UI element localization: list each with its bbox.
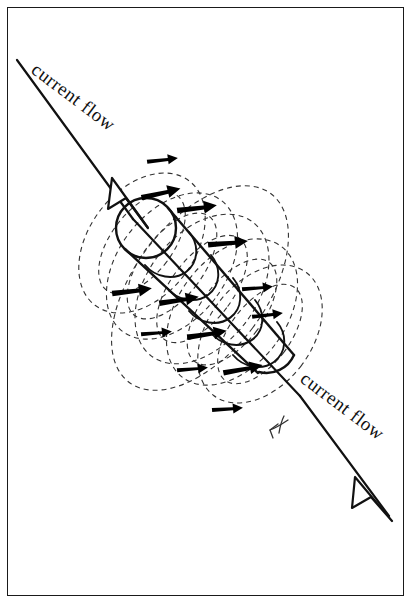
conductor-edge-upper xyxy=(168,208,294,355)
pointer-arrow-icon xyxy=(270,416,288,438)
label-current-flow-bottom: current flow xyxy=(297,367,389,444)
diagram-ink: current flow current flow xyxy=(17,58,392,521)
current-arrowhead-bottom xyxy=(352,477,392,521)
current-flow-axis xyxy=(17,60,392,521)
field-direction-arrow xyxy=(146,153,178,167)
field-direction-arrow xyxy=(141,326,173,339)
field-direction-arrow xyxy=(212,403,244,416)
field-loop-1 xyxy=(53,149,232,337)
field-direction-arrow xyxy=(111,282,152,300)
figure-canvas: current flow current flow xyxy=(0,0,412,605)
figure-page: current flow current flow xyxy=(0,0,412,605)
field-direction-arrow xyxy=(242,281,274,294)
field-direction-arrow xyxy=(158,290,200,310)
field-direction-arrow xyxy=(207,235,248,252)
label-current-flow-top: current flow xyxy=(28,58,120,135)
